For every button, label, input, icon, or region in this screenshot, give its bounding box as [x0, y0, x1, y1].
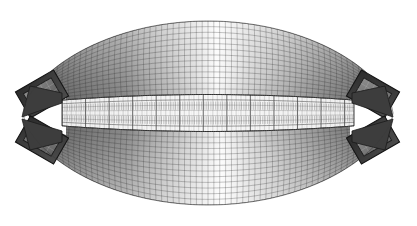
fea-mesh-figure: [0, 0, 417, 226]
figure-canvas: [0, 0, 417, 226]
